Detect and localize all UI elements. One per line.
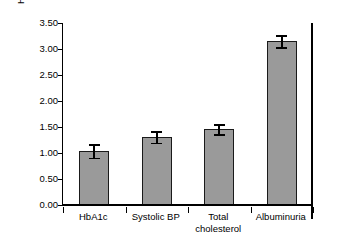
x-axis-category-label-line: Systolic BP	[125, 211, 188, 223]
x-axis-tick-mark	[313, 207, 314, 213]
y-axis-tick-label: 1.50	[28, 122, 58, 132]
right-frame-line	[311, 23, 313, 219]
x-axis-category-label-line: cholesterol	[187, 223, 250, 235]
y-axis-tick-label: 3.00	[28, 44, 58, 54]
y-axis-tick-label: 1.00	[28, 148, 58, 158]
y-axis-title-text: Hazard ratio end-stage renal disease	[14, 0, 28, 28]
x-axis-category-label-line: Total	[187, 211, 250, 223]
x-axis-category-labels: HbA1cSystolic BPTotalcholesterolAlbuminu…	[62, 211, 312, 245]
error-bar-stem	[93, 144, 95, 158]
y-axis-title: Hazard ratio end-stage renal disease	[14, 0, 28, 28]
bar	[204, 129, 234, 205]
error-bar-cap-upper	[151, 131, 162, 133]
error-bar-cap-lower	[276, 47, 287, 49]
error-bar-cap-lower	[151, 143, 162, 145]
x-axis-category-label-line: HbA1c	[62, 211, 125, 223]
error-bar-cap-upper	[214, 124, 225, 126]
x-axis-category-label: Totalcholesterol	[187, 211, 250, 234]
x-axis-category-label: HbA1c	[62, 211, 125, 223]
y-axis-tick-labels: 0.000.501.001.502.002.503.003.50	[28, 16, 58, 210]
y-axis-tick-label: 2.00	[28, 96, 58, 106]
error-bar-cap-lower	[214, 134, 225, 136]
y-axis-tick-label: 0.00	[28, 200, 58, 210]
y-axis-tick-label: 3.50	[28, 18, 58, 28]
bar-chart: Hazard ratio end-stage renal disease 0.0…	[0, 0, 342, 248]
x-axis-category-label-line: Albuminuria	[250, 211, 313, 223]
y-axis-tick-label: 2.50	[28, 70, 58, 80]
x-axis-category-label: Albuminuria	[250, 211, 313, 223]
bar	[267, 41, 297, 205]
x-axis-line	[62, 204, 313, 206]
bars-layer	[63, 23, 313, 205]
error-bar-cap-lower	[89, 158, 100, 160]
y-axis-tick-label: 0.50	[28, 174, 58, 184]
error-bar-cap-upper	[276, 35, 287, 37]
x-axis-category-label: Systolic BP	[125, 211, 188, 223]
plot-area	[62, 23, 313, 206]
bar	[142, 137, 172, 205]
error-bar-cap-upper	[89, 144, 100, 146]
